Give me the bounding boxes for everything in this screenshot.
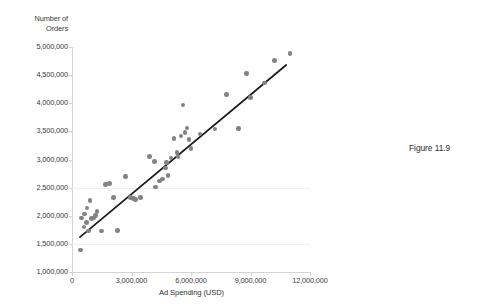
y-axis-tick-label: 5,000,000: [14, 43, 68, 51]
y-axis-tick-label: 4,500,000: [14, 71, 68, 79]
figure-caption: Figure 11.9: [409, 143, 450, 154]
y-axis-tick-label: 4,000,000: [14, 99, 68, 107]
scatter-point: [152, 159, 157, 164]
scatter-point: [183, 130, 188, 135]
scatter-point: [224, 92, 229, 97]
y-axis-tick-label: 2,000,000: [14, 212, 68, 220]
scatter-point: [78, 248, 83, 253]
y-axis-tick-labels: 1,000,0001,500,0002,000,0002,500,0003,00…: [12, 47, 68, 273]
x-axis-tick-mark: [191, 273, 192, 276]
x-axis-tick-mark: [132, 273, 133, 276]
trendline: [72, 47, 310, 272]
x-axis-tick-mark: [251, 273, 252, 276]
x-axis-tick-mark: [310, 273, 311, 276]
y-axis-title: Number of Orders: [14, 14, 68, 33]
scatter-point: [147, 154, 152, 159]
scatter-point: [236, 126, 241, 131]
y-axis-tick-label: 1,500,000: [14, 240, 68, 248]
scatter-point: [88, 198, 93, 203]
scatter-point: [187, 137, 192, 142]
y-axis-tick-label: 3,500,000: [14, 127, 68, 135]
scatter-point: [272, 58, 277, 63]
scatter-point: [86, 229, 91, 234]
scatter-point: [95, 209, 100, 214]
figure-container: Number of Orders 1,000,0001,500,0002,000…: [0, 0, 489, 304]
scatter-point: [153, 185, 158, 190]
scatter-point: [107, 181, 112, 186]
scatter-point: [163, 166, 168, 171]
scatter-point: [84, 220, 89, 225]
y-axis-tick-label: 3,000,000: [14, 156, 68, 164]
x-axis-tick-mark: [72, 273, 73, 276]
scatter-point: [115, 228, 120, 233]
scatter-point: [111, 195, 116, 200]
scatter-point: [79, 216, 84, 221]
x-axis-title: Ad Spending (USD): [72, 288, 311, 298]
x-axis-tick-label: 3,000,000: [116, 276, 148, 285]
plot-area: [72, 47, 310, 272]
scatter-point: [123, 174, 128, 179]
y-axis-tick-label: 1,000,000: [14, 268, 68, 276]
x-axis-tick-label: 0: [70, 276, 74, 285]
scatter-point: [244, 71, 249, 76]
scatter-point: [93, 213, 98, 218]
scatter-point: [262, 81, 267, 86]
scatter-point: [138, 195, 143, 200]
scatter-point: [164, 160, 169, 165]
x-axis-tick-label: 12,000,000: [292, 276, 328, 285]
x-axis-tick-label: 6,000,000: [175, 276, 207, 285]
scatter-point: [160, 177, 165, 182]
scatter-point: [248, 95, 253, 100]
y-axis-tick-label: 2,500,000: [14, 184, 68, 192]
scatter-point: [99, 229, 104, 234]
scatter-point: [166, 173, 171, 178]
x-axis-tick-label: 9,000,000: [235, 276, 267, 285]
scatter-point: [189, 146, 194, 151]
scatter-point: [133, 197, 138, 202]
